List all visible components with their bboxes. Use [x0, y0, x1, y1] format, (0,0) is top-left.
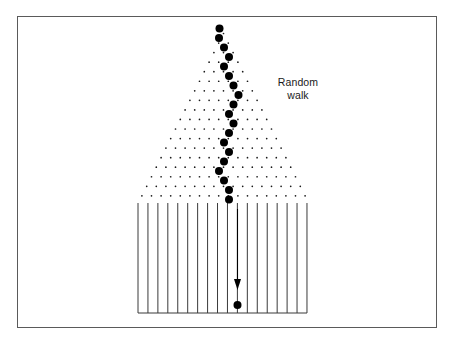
lattice-dot: [194, 128, 196, 130]
lattice-dot: [223, 185, 225, 187]
lattice-dot: [208, 176, 210, 178]
lattice-dot: [280, 147, 282, 149]
lattice-dot: [218, 195, 220, 197]
lattice-dot: [189, 138, 191, 140]
figure-root: Random walk: [0, 0, 455, 346]
lattice-dot: [175, 166, 177, 168]
lattice-dot: [290, 185, 292, 187]
lattice-dot: [155, 185, 157, 187]
lattice-dot: [184, 147, 186, 149]
lattice-dot: [218, 157, 220, 159]
lattice-dot: [218, 80, 220, 82]
lattice-dot: [203, 147, 205, 149]
lattice-dot: [170, 138, 172, 140]
lattice-dot: [218, 119, 220, 121]
lattice-dot: [194, 109, 196, 111]
lattice-dot: [208, 61, 210, 63]
lattice-dot: [227, 176, 229, 178]
lattice-dot: [256, 100, 258, 102]
lattice-dot: [175, 147, 177, 149]
walk-dot: [225, 72, 233, 80]
lattice-dot: [223, 147, 225, 149]
lattice-dot: [165, 166, 167, 168]
lattice-dot: [261, 185, 263, 187]
lattice-dot: [194, 185, 196, 187]
lattice-dot: [184, 185, 186, 187]
lattice-dot: [170, 157, 172, 159]
walk-final-dot: [234, 301, 242, 309]
bin-lines-group: [138, 203, 307, 313]
lattice-dot: [242, 109, 244, 111]
lattice-dot: [218, 176, 220, 178]
lattice-dot: [247, 195, 249, 197]
lattice-dot: [271, 147, 273, 149]
lattice-dot: [189, 100, 191, 102]
lattice-dot: [256, 138, 258, 140]
lattice-dot: [232, 109, 234, 111]
lattice-dot: [223, 33, 225, 35]
lattice-dot: [155, 166, 157, 168]
lattice-dot: [175, 128, 177, 130]
lattice-dot: [213, 109, 215, 111]
lattice-dot: [203, 166, 205, 168]
lattice-dot: [266, 176, 268, 178]
lattice-dot: [199, 195, 201, 197]
lattice-dot: [232, 52, 234, 54]
lattice-dot: [194, 166, 196, 168]
lattice-dot: [227, 42, 229, 44]
walk-direction-arrow: [234, 209, 241, 290]
lattice-dot: [223, 109, 225, 111]
walk-dot: [225, 196, 233, 204]
lattice-dot: [237, 100, 239, 102]
lattice-dot: [227, 61, 229, 63]
lattice-dot: [213, 147, 215, 149]
lattice-dot: [213, 166, 215, 168]
lattice-dot: [251, 185, 253, 187]
lattice-dot: [256, 119, 258, 121]
lattice-dot: [242, 71, 244, 73]
lattice-dot: [242, 128, 244, 130]
lattice-dot: [203, 109, 205, 111]
lattice-dot: [213, 128, 215, 130]
lattice-dot: [266, 157, 268, 159]
lattice-dot: [261, 166, 263, 168]
lattice-dot: [175, 185, 177, 187]
lattice-dot: [223, 166, 225, 168]
lattice-dot: [251, 109, 253, 111]
lattice-dot: [146, 185, 148, 187]
lattice-dot: [251, 128, 253, 130]
lattice-dot: [237, 157, 239, 159]
lattice-dot: [251, 90, 253, 92]
lattice-dot: [218, 100, 220, 102]
lattice-dot: [223, 71, 225, 73]
lattice-dot: [189, 157, 191, 159]
lattice-dot: [218, 138, 220, 140]
lattice-dot: [208, 119, 210, 121]
lattice-dot: [242, 166, 244, 168]
lattice-dot: [304, 195, 306, 197]
lattice-dot: [251, 166, 253, 168]
lattice-dot: [242, 185, 244, 187]
lattice-dot: [232, 166, 234, 168]
lattice-dot: [247, 138, 249, 140]
lattice-dot: [218, 61, 220, 63]
walk-dot: [230, 82, 238, 90]
lattice-dot: [184, 109, 186, 111]
lattice-dot: [208, 80, 210, 82]
lattice-dot: [199, 100, 201, 102]
lattice-dot: [232, 128, 234, 130]
random-walk-diagram: [0, 0, 455, 346]
lattice-dot: [199, 119, 201, 121]
lattice-dot: [218, 42, 220, 44]
lattice-dot: [160, 157, 162, 159]
lattice-dot: [237, 176, 239, 178]
walk-dot: [220, 158, 228, 166]
lattice-dot: [179, 138, 181, 140]
lattice-dot: [179, 176, 181, 178]
lattice-dot: [165, 185, 167, 187]
walk-dot: [215, 167, 223, 175]
lattice-dot: [184, 166, 186, 168]
lattice-dot: [199, 157, 201, 159]
lattice-dot: [232, 147, 234, 149]
lattice-dot: [237, 138, 239, 140]
